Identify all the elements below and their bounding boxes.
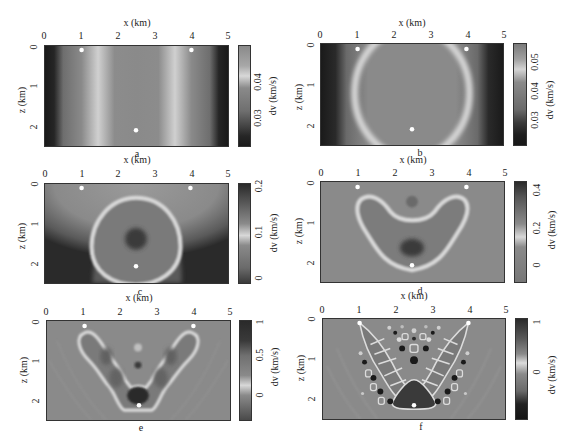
colorbar-tick: 0.03 <box>253 109 263 127</box>
receiver-marker <box>410 127 415 132</box>
colorbar <box>514 181 527 283</box>
heatmap-plot <box>320 181 505 283</box>
source-marker <box>464 185 469 190</box>
receiver-marker <box>134 264 139 269</box>
source-marker <box>355 185 360 190</box>
colorbar-tick: 0 <box>532 370 542 375</box>
x-tick: 4 <box>190 31 195 41</box>
x-tick: 3 <box>153 31 158 41</box>
x-tick: 0 <box>318 30 323 40</box>
z-tick: 1 <box>306 221 316 226</box>
panel-label: f <box>419 422 422 432</box>
z-tick: 2 <box>30 262 40 267</box>
receiver-marker <box>410 263 415 268</box>
x-tick: 1 <box>356 168 361 178</box>
z-axis-label: z (km) <box>294 218 304 244</box>
z-tick: 2 <box>306 124 316 129</box>
x-tick: 4 <box>466 30 471 40</box>
z-tick: 1 <box>307 357 317 362</box>
x-tick: 2 <box>392 30 397 40</box>
x-tick: 1 <box>81 307 86 317</box>
colorbar-label: dv (km/s) <box>547 356 557 395</box>
colorbar-tick: 0.1 <box>254 226 264 239</box>
colorbar-tick: 1 <box>532 320 542 325</box>
colorbar-label: dv (km/s) <box>547 211 557 250</box>
z-axis-label: z (km) <box>17 87 27 113</box>
z-tick: 2 <box>307 397 317 402</box>
colorbar-tick: 1 <box>255 320 265 325</box>
heatmap-plot <box>44 45 229 147</box>
x-axis-label: x (km) <box>126 293 153 303</box>
colorbar-tick: 0.4 <box>532 184 542 197</box>
x-tick: 3 <box>429 30 434 40</box>
x-tick: 5 <box>226 31 231 41</box>
heatmap-plot <box>44 183 229 284</box>
colorbar-label: dv (km/s) <box>545 81 555 120</box>
z-tick: 2 <box>31 399 41 404</box>
z-tick: 1 <box>29 84 39 89</box>
colorbar-tick: 0 <box>254 276 264 281</box>
x-tick: 0 <box>42 31 47 41</box>
z-tick: 1 <box>306 83 316 88</box>
x-tick: 5 <box>504 305 509 315</box>
heatmap-plot <box>322 318 506 420</box>
x-tick: 4 <box>192 307 197 317</box>
panel-label: e <box>139 423 143 433</box>
x-tick: 2 <box>116 169 121 179</box>
heatmap-plot <box>320 43 504 146</box>
heatmap-plot <box>46 320 231 421</box>
source-marker <box>82 324 87 329</box>
colorbar-tick: 0 <box>532 263 542 268</box>
x-axis-label: x (km) <box>124 18 151 28</box>
colorbar-label: dv (km/s) <box>270 348 280 387</box>
x-tick: 0 <box>319 168 324 178</box>
x-tick: 0 <box>43 169 48 179</box>
colorbar <box>238 45 251 147</box>
x-tick: 3 <box>431 305 436 315</box>
z-tick: 0 <box>29 45 39 50</box>
z-tick: 0 <box>306 181 316 186</box>
colorbar-tick: 0 <box>255 393 265 398</box>
colorbar-label: dv (km/s) <box>269 214 279 253</box>
colorbar-tick: 0.03 <box>530 111 540 129</box>
x-tick: 0 <box>44 307 49 317</box>
colorbar-tick: 0.04 <box>530 82 540 100</box>
x-tick: 4 <box>190 169 195 179</box>
colorbar <box>238 183 251 284</box>
z-axis-label: z (km) <box>19 357 29 383</box>
x-tick: 2 <box>118 307 123 317</box>
x-tick: 0 <box>320 305 325 315</box>
x-tick: 5 <box>503 168 508 178</box>
colorbar-label: dv (km/s) <box>268 77 278 116</box>
source-marker <box>355 47 360 52</box>
x-axis-label: x (km) <box>124 155 151 165</box>
colorbar-tick: 0.05 <box>530 53 540 71</box>
x-tick: 1 <box>80 169 85 179</box>
z-tick: 1 <box>31 359 41 364</box>
source-marker <box>466 321 471 326</box>
x-tick: 5 <box>226 169 231 179</box>
z-tick: 0 <box>31 320 41 325</box>
x-tick: 2 <box>394 305 399 315</box>
source-marker <box>191 324 196 329</box>
z-tick: 1 <box>30 222 40 227</box>
x-tick: 1 <box>355 30 360 40</box>
source-marker <box>79 186 84 191</box>
receiver-marker <box>412 403 417 408</box>
x-tick: 3 <box>155 307 160 317</box>
x-tick: 2 <box>116 31 121 41</box>
receiver-marker <box>137 403 142 408</box>
x-tick: 1 <box>357 305 362 315</box>
z-tick: 0 <box>30 182 40 187</box>
colorbar-tick: 0.04 <box>253 73 263 91</box>
z-tick: 0 <box>306 43 316 48</box>
source-marker <box>189 48 194 53</box>
x-tick: 4 <box>468 305 473 315</box>
colorbar <box>515 318 528 420</box>
z-tick: 2 <box>306 261 316 266</box>
x-tick: 1 <box>79 31 84 41</box>
x-tick: 2 <box>393 168 398 178</box>
receiver-marker <box>134 128 139 133</box>
colorbar-tick: 0.5 <box>255 349 265 362</box>
colorbar <box>239 320 252 421</box>
